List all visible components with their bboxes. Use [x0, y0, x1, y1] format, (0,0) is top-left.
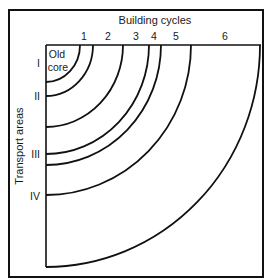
- building-cycles-diagram: Building cycles Transport areas 123456 I…: [0, 0, 270, 280]
- transport-area-label-I: I: [37, 57, 40, 69]
- cycle-label-3: 3: [133, 30, 139, 42]
- cycle-label-4: 4: [151, 30, 157, 42]
- transport-area-label-III: III: [31, 148, 40, 160]
- outer-frame: [9, 10, 263, 277]
- cycle-label-6: 6: [222, 30, 228, 42]
- cycle-labels: 123456: [81, 30, 228, 42]
- title: Building cycles: [119, 14, 192, 26]
- cycle-arcs: [46, 45, 260, 267]
- transport-area-labels: IIIIIIIV: [30, 57, 40, 202]
- cycle-label-5: 5: [173, 30, 179, 42]
- transport-area-label-II: II: [34, 90, 40, 102]
- y-axis-label: Transport areas: [13, 107, 25, 185]
- cycle-label-2: 2: [105, 30, 111, 42]
- cycle-arc-6: [46, 45, 260, 267]
- core-label-core: core: [48, 61, 69, 73]
- transport-area-label-IV: IV: [30, 190, 40, 202]
- core-label-old: Old: [49, 48, 66, 60]
- cycle-label-1: 1: [81, 30, 87, 42]
